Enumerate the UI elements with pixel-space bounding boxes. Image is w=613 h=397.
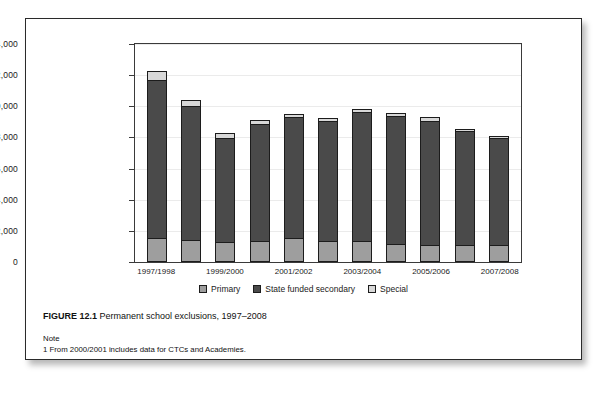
bar [318, 118, 338, 262]
x-axis-tick-label: 2003/2004 [352, 265, 372, 281]
y-axis-tick-mark [129, 262, 134, 263]
legend-swatch-icon [199, 285, 207, 293]
figure-caption: FIGURE 12.1 Permanent school exclusions,… [43, 311, 267, 321]
bar-segment-primary [455, 245, 475, 262]
x-axis-tick-label: 1999/2000 [215, 265, 235, 281]
bar [386, 113, 406, 262]
bar-segment-primary [318, 241, 338, 262]
x-axis-tick-label [455, 265, 475, 281]
bar-segment-state-funded-secondary [420, 121, 440, 246]
legend-swatch-icon [368, 285, 376, 293]
chart-legend: PrimaryState funded secondarySpecial [26, 284, 581, 294]
legend-item: Special [368, 284, 408, 294]
chart: 02,0004,0006,0008,00010,00012,00014,000 … [26, 19, 581, 279]
bar-segment-special [147, 71, 167, 81]
figure-note: Note 1 From 2000/2001 includes data for … [43, 333, 246, 356]
y-axis-tick-mark [129, 106, 134, 107]
bar-segment-primary [181, 240, 201, 262]
legend-item: Primary [199, 284, 240, 294]
y-axis-tick-mark [129, 231, 134, 232]
x-axis-tick-label [249, 265, 269, 281]
figure-caption-text: Permanent school exclusions, 1997–2008 [100, 311, 267, 321]
legend-label: Special [380, 284, 408, 294]
legend-label: Primary [211, 284, 240, 294]
bar [420, 117, 440, 262]
bar-segment-primary [386, 244, 406, 262]
x-axis-labels: 1997/19981999/20002001/20022003/20042005… [134, 265, 522, 281]
bar-segment-state-funded-secondary [352, 112, 372, 241]
note-line: 1 From 2000/2001 includes data for CTCs … [43, 344, 246, 355]
bar-segment-state-funded-secondary [215, 138, 235, 242]
bar-segment-state-funded-secondary [250, 124, 270, 240]
bar-segment-primary [489, 245, 509, 262]
bar-segment-primary [284, 238, 304, 262]
legend-swatch-icon [253, 285, 261, 293]
bar [215, 133, 235, 262]
y-axis-tick-mark [129, 75, 134, 76]
y-axis-tick-label: 12,000 [0, 70, 18, 80]
y-axis-tick-label: 8,000 [0, 132, 18, 142]
x-axis-tick-label [181, 265, 201, 281]
x-axis-tick-label: 2005/2006 [421, 265, 441, 281]
bar-group [135, 44, 521, 262]
y-axis-tick-label: 4,000 [0, 195, 18, 205]
bar-segment-primary [215, 242, 235, 262]
legend-label: State funded secondary [265, 284, 355, 294]
y-axis-tick-label: 0 [0, 257, 18, 267]
y-axis-tick-mark [129, 137, 134, 138]
bar-segment-state-funded-secondary [489, 138, 509, 245]
y-axis-tick-label: 14,000 [0, 39, 18, 49]
bar [181, 100, 201, 262]
y-axis-tick-label: 2,000 [0, 226, 18, 236]
x-axis-tick-label [387, 265, 407, 281]
bar-segment-state-funded-secondary [284, 117, 304, 238]
bar-segment-state-funded-secondary [386, 116, 406, 244]
legend-item: State funded secondary [253, 284, 355, 294]
x-axis-tick-label [318, 265, 338, 281]
bar-segment-primary [352, 241, 372, 262]
y-axis-tick-mark [129, 169, 134, 170]
bar [250, 120, 270, 262]
bar-segment-state-funded-secondary [147, 80, 167, 238]
bar [352, 109, 372, 262]
figure-label: FIGURE 12.1 [43, 311, 97, 321]
y-axis-tick-mark [129, 200, 134, 201]
scanned-page-sheet: 02,0004,0006,0008,00010,00012,00014,000 … [25, 18, 582, 360]
y-axis-tick-label: 6,000 [0, 164, 18, 174]
plot-area [134, 43, 522, 263]
y-axis-tick-label: 10,000 [0, 101, 18, 111]
bar-segment-state-funded-secondary [181, 106, 201, 239]
x-axis-tick-label: 1997/1998 [146, 265, 166, 281]
x-axis-tick-label: 2001/2002 [284, 265, 304, 281]
bar-segment-primary [250, 241, 270, 262]
bar-segment-state-funded-secondary [318, 121, 338, 241]
bar-segment-primary [420, 245, 440, 262]
x-axis-tick-label: 2007/2008 [490, 265, 510, 281]
y-axis-tick-mark [129, 44, 134, 45]
bar [455, 129, 475, 262]
bar [147, 71, 167, 263]
bar-segment-state-funded-secondary [455, 131, 475, 245]
bar [489, 136, 509, 262]
bar-segment-primary [147, 238, 167, 262]
bar [284, 114, 304, 262]
note-heading: Note [43, 333, 246, 344]
